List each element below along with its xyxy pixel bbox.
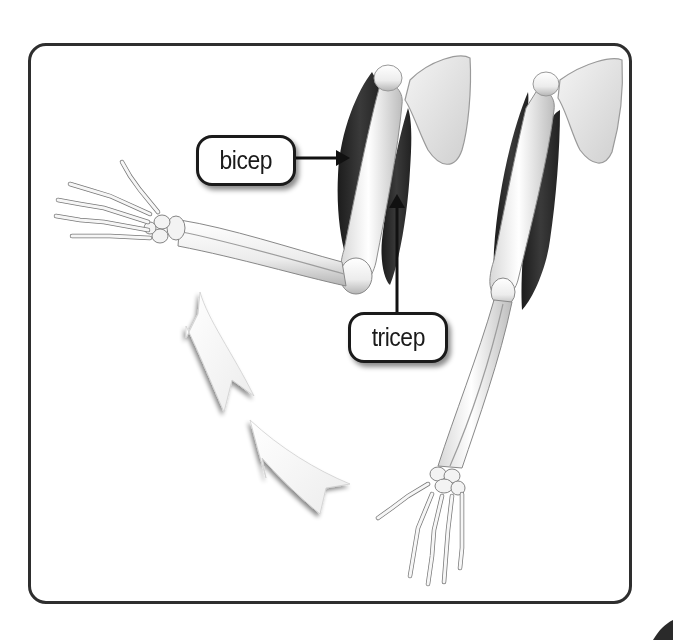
humeral-head-flexed <box>374 65 402 91</box>
scapula-extended <box>558 59 622 163</box>
tricep-label: tricep <box>348 312 448 363</box>
scapula-flexed <box>405 56 471 164</box>
forearm-extended <box>438 300 512 468</box>
bicep-label: bicep <box>196 135 296 186</box>
humeral-head-extended <box>533 72 559 96</box>
motion-arrow-upper <box>186 292 254 412</box>
hand-flexed <box>56 162 185 243</box>
hand-extended <box>378 467 465 584</box>
arm-illustration <box>0 0 673 640</box>
forearm-flexed <box>178 220 346 286</box>
corner-page-curl <box>645 612 673 640</box>
motion-arrow-lower <box>250 420 350 514</box>
